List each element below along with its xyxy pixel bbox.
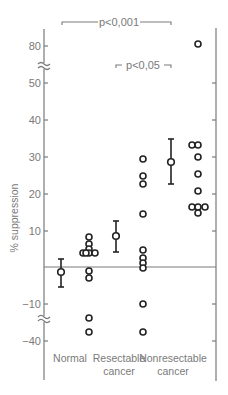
data-point <box>140 247 146 253</box>
mean-point <box>168 159 175 166</box>
y-axis-title: % suppression <box>8 183 20 252</box>
mean-point <box>113 233 120 240</box>
data-point <box>140 265 146 271</box>
data-point <box>140 173 146 179</box>
tick-label-10: 10 <box>29 225 41 237</box>
group-normal <box>58 234 98 335</box>
p-value-label-inner: p<0,05 <box>126 59 160 71</box>
data-point <box>86 234 92 240</box>
data-point <box>202 204 208 210</box>
data-point <box>189 204 195 210</box>
data-point <box>140 156 146 162</box>
tick-label-40: 40 <box>29 114 41 126</box>
group-resectable-cancer <box>113 156 146 335</box>
group-nonresectable-cancer <box>168 41 208 216</box>
data-point <box>195 210 201 216</box>
mean-point <box>58 269 65 276</box>
category-label-resectable-line2: cancer <box>103 365 135 377</box>
data-point <box>86 275 92 281</box>
data-point <box>86 315 92 321</box>
tick-label-minus-10: −10 <box>22 298 41 310</box>
data-point <box>195 41 201 47</box>
mean-error-bar-nonresectable <box>168 139 175 184</box>
data-point <box>86 329 92 335</box>
significance-bracket-top: p<0,001 <box>62 16 171 28</box>
category-label-resectable-line1: Resectable <box>93 352 146 364</box>
tick-label-50: 50 <box>29 77 41 89</box>
data-point <box>189 142 195 148</box>
p-value-label-top: p<0,001 <box>99 16 139 28</box>
x-category-labels: Normal Resectable cancer Nonresectable c… <box>53 352 207 377</box>
data-point <box>140 211 146 217</box>
data-point <box>195 204 201 210</box>
tick-label-30: 30 <box>29 151 41 163</box>
data-point <box>86 268 92 274</box>
data-point <box>195 188 201 194</box>
dot-plot-chart: p<0,001 p<0,05 80 50 40 30 20 10 −10 −40 <box>0 0 228 395</box>
category-label-nonresectable-line2: cancer <box>157 365 189 377</box>
category-label-nonresectable-line1: Nonresectable <box>139 352 207 364</box>
significance-bracket-inner: p<0,05 <box>116 59 171 71</box>
data-point <box>195 171 201 177</box>
data-point <box>140 301 146 307</box>
category-label-normal: Normal <box>53 352 87 364</box>
y-axis-right <box>212 28 216 381</box>
data-point <box>83 250 89 256</box>
data-point <box>195 142 201 148</box>
tick-label-20: 20 <box>29 188 41 200</box>
data-point <box>195 154 201 160</box>
mean-error-bar-normal <box>58 259 65 287</box>
tick-label-minus-40: −40 <box>22 335 41 347</box>
tick-label-80: 80 <box>29 40 41 52</box>
mean-error-bar-resectable <box>113 221 120 252</box>
data-point <box>140 329 146 335</box>
data-point <box>92 250 98 256</box>
y-tick-labels: 80 50 40 30 20 10 −10 −40 <box>22 40 41 347</box>
data-point <box>140 181 146 187</box>
